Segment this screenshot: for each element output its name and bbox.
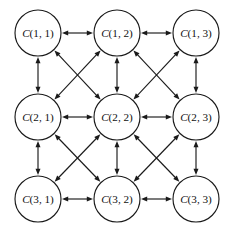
arrow-head-forward bbox=[194, 169, 199, 175]
node-c13[interactable]: C(1, 3) bbox=[173, 10, 219, 56]
node-c32[interactable]: C(3, 2) bbox=[94, 176, 140, 222]
node-c21[interactable]: C(2, 1) bbox=[15, 94, 61, 140]
nodes-layer: C(1, 1)C(1, 2)C(1, 3)C(2, 1)C(2, 2)C(2, … bbox=[15, 10, 219, 222]
arrow-head-reverse bbox=[36, 141, 41, 147]
edge-c21-c22 bbox=[62, 115, 93, 120]
node-label: C(2, 3) bbox=[180, 110, 212, 123]
edge-c11-c21 bbox=[36, 57, 41, 93]
node-label: C(1, 3) bbox=[180, 26, 212, 39]
edge-c11-c12 bbox=[62, 31, 93, 36]
node-c23[interactable]: C(2, 3) bbox=[173, 94, 219, 140]
edge-c21-c31 bbox=[36, 141, 41, 175]
arrow-head-forward bbox=[36, 87, 41, 93]
arrow-head-forward bbox=[87, 197, 93, 202]
node-label: C(1, 1) bbox=[22, 26, 54, 39]
arrow-head-forward bbox=[115, 169, 120, 175]
arrow-head-reverse bbox=[115, 57, 120, 63]
node-label: C(2, 1) bbox=[22, 110, 54, 123]
node-c11[interactable]: C(1, 1) bbox=[15, 10, 61, 56]
grid-graph-diagram: C(1, 1)C(1, 2)C(1, 3)C(2, 1)C(2, 2)C(2, … bbox=[0, 0, 234, 235]
arrow-head-reverse bbox=[141, 197, 147, 202]
edge-c22-c23 bbox=[141, 115, 172, 120]
edge-c13-c23 bbox=[194, 57, 199, 93]
edge-c22-c32 bbox=[115, 141, 120, 175]
node-label: C(3, 3) bbox=[180, 192, 212, 205]
arrow-head-reverse bbox=[194, 141, 199, 147]
arrow-head-reverse bbox=[141, 31, 147, 36]
arrow-head-forward bbox=[87, 31, 93, 36]
arrow-head-forward bbox=[36, 169, 41, 175]
node-label: C(2, 2) bbox=[101, 110, 133, 123]
arrow-head-forward bbox=[166, 197, 172, 202]
edge-c12-c13 bbox=[141, 31, 172, 36]
arrow-head-reverse bbox=[194, 57, 199, 63]
edge-c12-c22 bbox=[115, 57, 120, 93]
arrow-head-reverse bbox=[62, 31, 68, 36]
arrow-head-forward bbox=[115, 87, 120, 93]
arrow-head-forward bbox=[166, 31, 172, 36]
node-c33[interactable]: C(3, 3) bbox=[173, 176, 219, 222]
arrow-head-reverse bbox=[115, 141, 120, 147]
edge-c32-c33 bbox=[141, 197, 172, 202]
arrow-head-reverse bbox=[62, 197, 68, 202]
arrow-head-forward bbox=[166, 115, 172, 120]
arrow-head-reverse bbox=[36, 57, 41, 63]
node-label: C(3, 2) bbox=[101, 192, 133, 205]
arrow-head-forward bbox=[87, 115, 93, 120]
edge-c23-c33 bbox=[194, 141, 199, 175]
node-label: C(1, 2) bbox=[101, 26, 133, 39]
arrow-head-reverse bbox=[62, 115, 68, 120]
node-label: C(3, 1) bbox=[22, 192, 54, 205]
graph-canvas: C(1, 1)C(1, 2)C(1, 3)C(2, 1)C(2, 2)C(2, … bbox=[0, 0, 234, 235]
arrow-head-forward bbox=[194, 87, 199, 93]
node-c31[interactable]: C(3, 1) bbox=[15, 176, 61, 222]
arrow-head-reverse bbox=[141, 115, 147, 120]
node-c12[interactable]: C(1, 2) bbox=[94, 10, 140, 56]
edge-c31-c32 bbox=[62, 197, 93, 202]
node-c22[interactable]: C(2, 2) bbox=[94, 94, 140, 140]
